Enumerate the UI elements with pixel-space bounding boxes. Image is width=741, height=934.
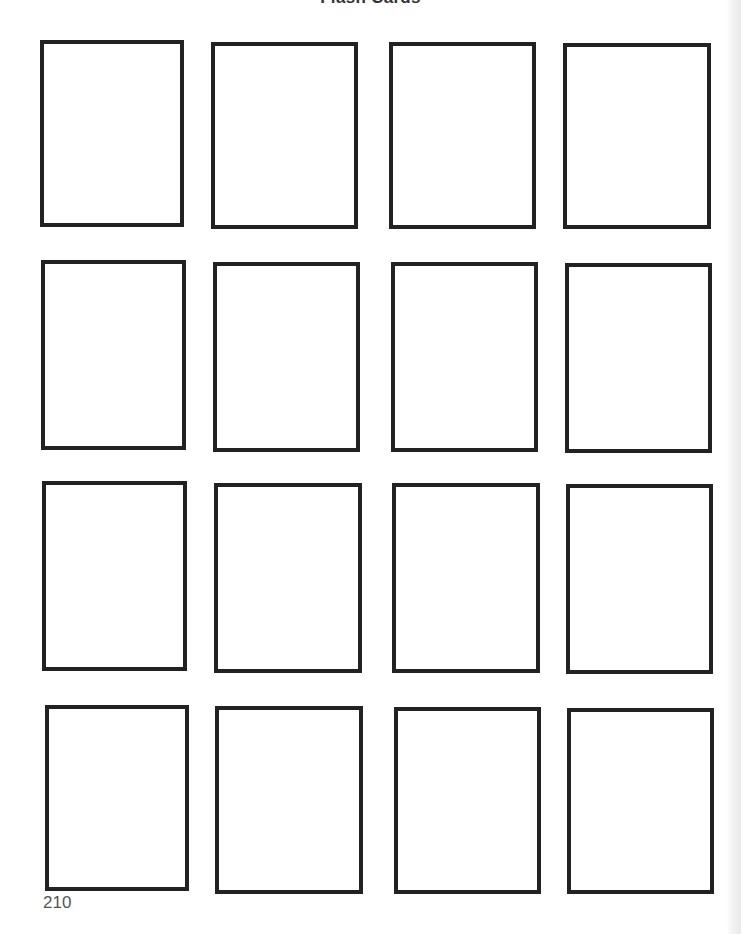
flash-card-r1c1 [40, 40, 184, 227]
flash-card-r4c3 [394, 707, 541, 894]
page-title: Flash Cards [0, 0, 741, 8]
flash-card-r2c2 [213, 262, 360, 452]
flash-card-r3c1 [42, 481, 187, 671]
flash-card-r4c1 [45, 705, 189, 891]
flash-card-r1c4 [563, 43, 711, 229]
flash-card-r4c2 [215, 706, 363, 894]
flash-card-r1c2 [211, 42, 358, 229]
page-number: 210 [43, 893, 71, 913]
flash-card-r4c4 [567, 708, 714, 894]
flash-card-r2c1 [41, 260, 186, 450]
flash-card-r3c4 [566, 484, 713, 674]
flash-card-r3c2 [214, 483, 362, 673]
flash-card-r2c4 [565, 263, 712, 453]
flash-card-r3c3 [392, 483, 540, 673]
page-gutter-shadow [727, 0, 741, 934]
flash-card-r2c3 [391, 262, 538, 452]
flash-card-r1c3 [389, 42, 536, 229]
